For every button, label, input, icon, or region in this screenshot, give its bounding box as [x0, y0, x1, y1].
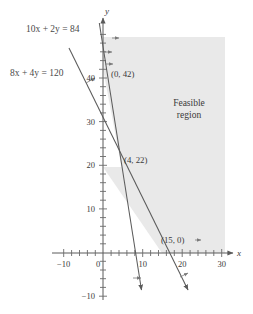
y-tick-label-40: 40	[87, 73, 96, 83]
point-label-15-0: (15, 0)	[161, 235, 185, 245]
feasible-region-label-line1: Feasible	[173, 98, 205, 108]
x-tick-label-10: 10	[138, 259, 147, 269]
point-label-0-42: (0, 42)	[111, 69, 135, 79]
y-tick-label-10: 10	[87, 204, 96, 214]
x-tick-label-30: 30	[217, 259, 226, 269]
y-tick-label-20: 20	[87, 160, 96, 170]
linear-programming-graph: −10 0 10 20 30 40 30 20 10 −10 x y 10x +…	[0, 0, 253, 314]
y-tick-label-30: 30	[87, 117, 96, 127]
x-tick-label-0: 0	[96, 259, 100, 269]
x-axis-label: x	[236, 248, 241, 258]
point-label-4-22: (4, 22)	[124, 155, 148, 165]
feasible-region-label-line2: region	[177, 110, 202, 120]
graph-figure: −10 0 10 20 30 40 30 20 10 −10 x y 10x +…	[0, 0, 253, 314]
equation-label-2: 8x + 4y = 120	[10, 68, 64, 78]
y-tick-label-neg10: −10	[82, 291, 95, 301]
x-axis-ticks	[64, 249, 222, 257]
x-tick-label-neg10: −10	[57, 259, 70, 269]
equation-label-1: 10x + 2y = 84	[26, 24, 80, 34]
x-tick-label-20: 20	[178, 259, 187, 269]
y-axis-label: y	[104, 6, 109, 16]
